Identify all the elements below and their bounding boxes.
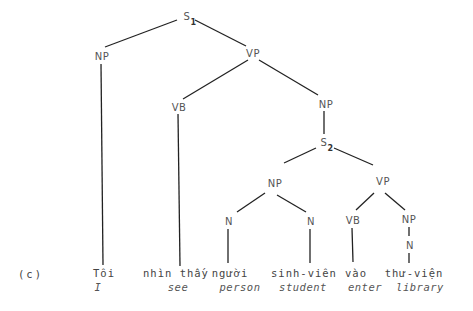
node-n-library: N [406,240,414,251]
node-vb-main: VB [172,102,187,113]
node-np-subject: NP [95,51,110,62]
example-label: (c) [18,268,43,280]
gloss-enter: enter [348,281,382,293]
node-vb-embedded: VB [346,215,361,226]
word-thu-vien: thư-viện [385,267,444,279]
node-s2: S2 [321,137,334,148]
node-s1-label: S [184,11,191,22]
node-np-object: NP [319,99,334,110]
gloss-person: person [220,281,261,293]
node-vp-embedded: VP [376,176,390,187]
node-np-library: NP [402,214,417,225]
node-s1: S1 [184,11,197,22]
gloss-library: library [396,281,444,293]
word-nguoi: người [212,267,249,279]
node-s2-label: S [321,137,328,148]
tree-branches [0,0,473,311]
node-vp-main: VP [246,48,260,59]
gloss-student: student [279,281,327,293]
word-toi: Tôi [93,267,115,279]
word-vao: vào [345,267,367,279]
gloss-see: see [168,281,188,293]
node-n-person: N [225,216,233,227]
node-s2-subscript: 2 [327,144,333,153]
gloss-i: I [95,281,102,293]
node-np-embedded: NP [268,178,283,189]
word-nhin-thay: nhìn thấy [143,267,209,279]
node-s1-subscript: 1 [190,18,196,27]
word-sinh-vien: sinh-viên [271,267,337,279]
node-n-student: N [307,216,315,227]
syntax-tree: S1 NP VP VB NP S2 NP VP N N VB NP N (c) … [0,0,473,311]
